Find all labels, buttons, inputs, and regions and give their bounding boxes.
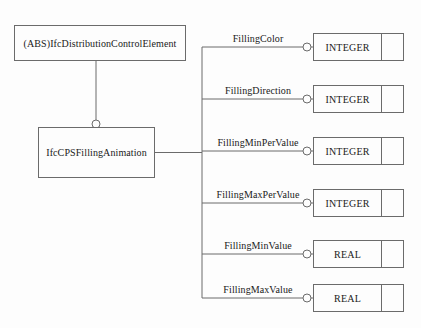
attribute-label-fillingminvalue: FillingMinValue xyxy=(224,240,292,251)
type-box-optional-compartment xyxy=(381,138,403,164)
type-box-main-compartment: REAL xyxy=(314,285,381,311)
type-box-optional-compartment xyxy=(381,34,403,60)
entity-box-parent[interactable]: (ABS)IfcDistributionControlElement xyxy=(14,25,186,61)
attribute-connector-circle-5 xyxy=(303,294,311,302)
attribute-connector-circle-0 xyxy=(303,43,311,51)
type-box-fillingcolor[interactable]: INTEGER xyxy=(313,33,404,61)
entity-label-child: IfcCPSFillingAnimation xyxy=(46,147,147,158)
type-box-main-compartment: INTEGER xyxy=(314,34,381,60)
type-name-real: REAL xyxy=(334,293,361,304)
type-box-fillingminpervalue[interactable]: INTEGER xyxy=(313,137,404,165)
type-name-integer: INTEGER xyxy=(325,198,369,209)
type-box-fillingminvalue[interactable]: REAL xyxy=(313,240,404,268)
attribute-label-fillingmaxpervalue: FillingMaxPerValue xyxy=(217,189,300,200)
attribute-connector-circle-3 xyxy=(303,199,311,207)
type-box-optional-compartment xyxy=(381,190,403,216)
type-box-optional-compartment xyxy=(381,86,403,112)
entity-label-parent: (ABS)IfcDistributionControlElement xyxy=(24,38,177,49)
type-box-optional-compartment xyxy=(381,285,403,311)
type-box-main-compartment: REAL xyxy=(314,241,381,267)
type-name-integer: INTEGER xyxy=(325,42,369,53)
type-name-integer: INTEGER xyxy=(325,94,369,105)
attribute-label-fillingminpervalue: FillingMinPerValue xyxy=(217,137,298,148)
type-name-real: REAL xyxy=(334,249,361,260)
attribute-label-fillingmaxvalue: FillingMaxValue xyxy=(223,284,292,295)
type-box-fillingmaxpervalue[interactable]: INTEGER xyxy=(313,189,404,217)
attribute-connector-circle-4 xyxy=(303,250,311,258)
type-box-fillingdirection[interactable]: INTEGER xyxy=(313,85,404,113)
type-box-main-compartment: INTEGER xyxy=(314,190,381,216)
attribute-label-fillingdirection: FillingDirection xyxy=(225,85,291,96)
attribute-label-fillingcolor: FillingColor xyxy=(233,33,284,44)
attribute-connector-circle-2 xyxy=(303,147,311,155)
entity-box-child[interactable]: IfcCPSFillingAnimation xyxy=(38,127,155,178)
type-box-optional-compartment xyxy=(381,241,403,267)
type-box-main-compartment: INTEGER xyxy=(314,86,381,112)
attribute-connector-circle-1 xyxy=(303,95,311,103)
type-name-integer: INTEGER xyxy=(325,146,369,157)
type-box-fillingmaxvalue[interactable]: REAL xyxy=(313,284,404,312)
type-box-main-compartment: INTEGER xyxy=(314,138,381,164)
express-g-diagram: (ABS)IfcDistributionControlElement IfcCP… xyxy=(0,0,421,328)
